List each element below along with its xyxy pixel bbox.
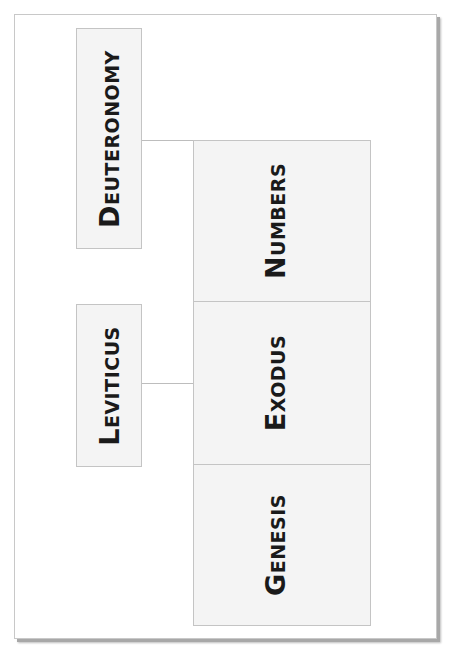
label-cap: D — [94, 204, 125, 227]
box-genesis: GENESIS — [193, 464, 371, 626]
label-numbers: NUMBERS — [259, 163, 290, 279]
label-cap: E — [259, 412, 290, 431]
box-leviticus: LEVITICUS — [76, 304, 142, 467]
connector-leviticus-exodus — [142, 383, 194, 384]
label-rest: ENESIS — [266, 494, 288, 573]
label-rest: UMBERS — [266, 163, 288, 256]
box-numbers: NUMBERS — [193, 140, 371, 302]
label-leviticus: LEVITICUS — [94, 326, 125, 446]
label-rest: XODUS — [266, 335, 288, 413]
label-cap: G — [259, 573, 290, 596]
label-deuteronomy: DEUTERONOMY — [94, 50, 125, 228]
label-rest: EUTERONOMY — [101, 50, 123, 205]
label-genesis: GENESIS — [259, 494, 290, 596]
label-cap: L — [94, 428, 125, 446]
connector-deuteronomy-numbers — [142, 140, 194, 141]
label-exodus: EXODUS — [259, 335, 290, 431]
label-rest: EVITICUS — [101, 326, 123, 428]
box-deuteronomy: DEUTERONOMY — [76, 28, 142, 249]
box-exodus: EXODUS — [193, 301, 371, 465]
label-cap: N — [259, 256, 290, 279]
